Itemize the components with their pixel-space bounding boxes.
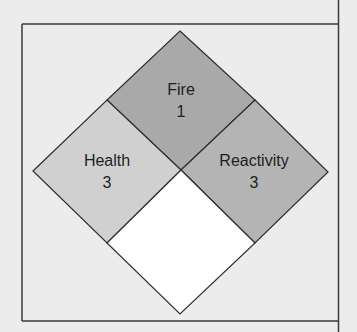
diagram-canvas xyxy=(0,0,357,332)
fire-value: 1 xyxy=(167,101,195,123)
health-label: Health xyxy=(84,150,130,172)
reactivity-value: 3 xyxy=(219,172,288,194)
reactivity-label: Reactivity xyxy=(219,150,288,172)
fire-text: Fire 1 xyxy=(167,79,195,123)
hazard-diagram: Fire 1 Health 3 Reactivity 3 xyxy=(0,0,357,332)
health-text: Health 3 xyxy=(84,150,130,194)
health-value: 3 xyxy=(84,172,130,194)
reactivity-text: Reactivity 3 xyxy=(219,150,288,194)
fire-label: Fire xyxy=(167,79,195,101)
